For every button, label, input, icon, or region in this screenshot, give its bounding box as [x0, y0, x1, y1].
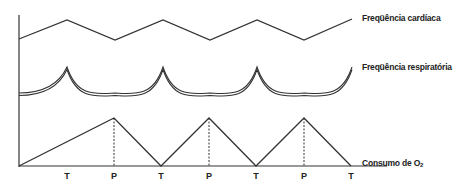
respiratory-rate-line	[19, 67, 352, 94]
o2-label-subscript: 2	[420, 162, 423, 168]
tick-label: P	[301, 171, 307, 181]
o2-consumption-label: Consumo de O2	[362, 158, 423, 168]
tick-label: T	[158, 171, 164, 181]
tick-label: T	[348, 171, 354, 181]
tick-label: P	[111, 171, 117, 181]
heart-rate-line	[19, 19, 352, 40]
o2-label-main: Consumo de O	[362, 158, 420, 168]
peak-dashed-lines	[114, 118, 304, 166]
respiratory-rate-label: Freqüência respiratória	[362, 62, 452, 72]
heart-rate-label: Freqüência cardíaca	[362, 13, 440, 23]
o2-consumption-line	[19, 118, 351, 166]
tick-label: P	[206, 171, 212, 181]
tick-label: T	[64, 171, 70, 181]
tick-label: T	[253, 171, 259, 181]
